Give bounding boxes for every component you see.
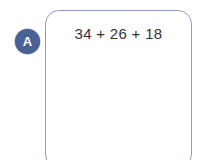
item-label-letter: A [23,35,32,48]
expression-text: 34 + 26 + 18 [46,25,191,42]
answer-box[interactable]: 34 + 26 + 18 [45,10,192,160]
item-label-badge: A [15,29,40,54]
question-item: A 34 + 26 + 18 [0,0,205,160]
